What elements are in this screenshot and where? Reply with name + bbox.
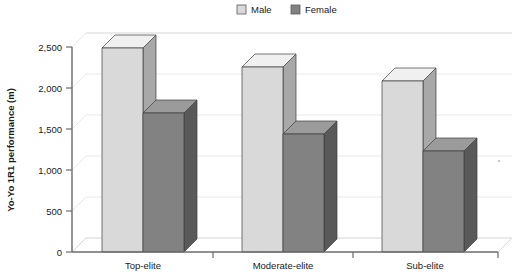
bar-moderate-elite-female [283, 121, 337, 252]
yo-yo-performance-bar-chart: Male Female [0, 0, 524, 277]
y-tick-label-500: 500 [46, 206, 62, 217]
bar-front-face [382, 81, 423, 252]
x-category-label-top-elite: Top-elite [125, 260, 161, 271]
legend-swatch-male [237, 5, 246, 14]
bar-sub-elite-female [423, 138, 477, 252]
y-tick-label-0: 0 [57, 247, 62, 258]
bar-side-face [464, 138, 477, 252]
bar-top-elite-female [143, 100, 197, 252]
legend-item-female: Female [291, 4, 337, 15]
legend-label-male: Male [251, 4, 272, 15]
y-tick-label-2500: 2,500 [38, 42, 62, 53]
bar-front-face [143, 113, 184, 252]
legend-item-male: Male [237, 4, 272, 15]
bar-front-face [423, 151, 464, 252]
scan-artifact-speck [498, 160, 500, 162]
y-tick-label-1000: 1,000 [38, 165, 62, 176]
legend-label-female: Female [305, 4, 337, 15]
bar-front-face [283, 134, 324, 252]
x-category-label-moderate-elite: Moderate-elite [253, 260, 314, 271]
bar-front-face [242, 67, 283, 252]
y-tick-label-1500: 1,500 [38, 124, 62, 135]
y-tick-label-2000: 2,000 [38, 83, 62, 94]
y-axis-title: Yo-Yo 1R1 performance (m) [5, 88, 16, 212]
bar-side-face [324, 121, 337, 252]
legend-swatch-female [291, 5, 300, 14]
x-category-label-sub-elite: Sub-elite [406, 260, 444, 271]
bar-front-face [102, 48, 143, 252]
bar-side-face [184, 100, 197, 252]
